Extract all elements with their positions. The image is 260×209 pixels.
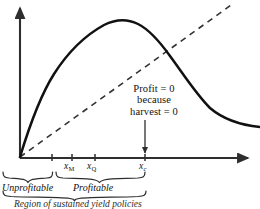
figure-caption: Region of sustained yield policies xyxy=(14,199,254,209)
sustained-yield-figure: Profit = 0 because harvest = 0 xM xQ xc … xyxy=(0,0,260,209)
region-label-unprofitable: Unprofitable xyxy=(2,183,53,194)
tick-label-xc-sub: c xyxy=(144,165,147,172)
tick-label-xq: xQ xyxy=(87,161,96,171)
annotation-line-2: because xyxy=(108,94,200,105)
annotation-line-1: Profit = 0 xyxy=(108,83,200,94)
dashed-reference-line xyxy=(20,3,234,157)
tick-label-xc: xc xyxy=(139,161,146,171)
tick-label-xq-base: x xyxy=(87,161,91,171)
brace-profitable xyxy=(56,172,145,183)
brace-unprofitable xyxy=(3,172,53,183)
tick-label-xq-sub: Q xyxy=(92,165,97,172)
tick-label-xm: xM xyxy=(64,161,74,171)
annotation-line-3: harvest = 0 xyxy=(108,106,200,117)
tick-label-xm-base: x xyxy=(64,161,68,171)
tick-label-xm-sub: M xyxy=(69,165,75,172)
region-label-profitable: Profitable xyxy=(73,183,113,194)
profit-zero-annotation: Profit = 0 because harvest = 0 xyxy=(108,83,200,117)
tick-label-xc-base: x xyxy=(139,161,143,171)
